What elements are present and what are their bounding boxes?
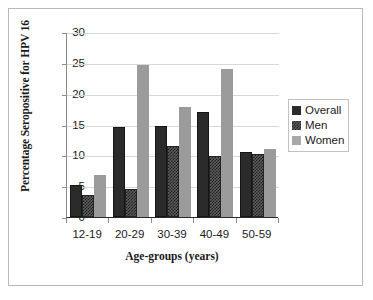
bar-overall-20-29	[113, 127, 125, 217]
bar-overall-40-49	[197, 112, 209, 217]
legend-label: Overall	[305, 105, 341, 117]
x-tick-mark	[151, 218, 152, 223]
bar-men-12-19	[82, 195, 94, 217]
bar-men-30-39	[167, 146, 179, 217]
plot-area	[66, 33, 278, 218]
x-tick-mark	[278, 218, 279, 223]
bar-group	[70, 32, 106, 217]
bar-men-20-29	[125, 189, 137, 217]
legend-item-women: Women	[292, 133, 344, 148]
y-axis-title: Percentage Seropositive for HPV 16	[19, 6, 31, 206]
x-tick-label: 50-59	[227, 228, 287, 240]
legend-swatch-icon	[292, 106, 301, 115]
x-tick-mark	[193, 218, 194, 223]
bar-women-50-59	[264, 149, 276, 217]
chart-figure: Percentage Seropositive for HPV 16 05101…	[0, 0, 373, 300]
bar-men-50-59	[252, 154, 264, 217]
bar-men-40-49	[209, 156, 221, 217]
chart-legend: OverallMenWomen	[288, 99, 349, 152]
legend-label: Women	[305, 135, 344, 147]
legend-item-men: Men	[292, 118, 344, 133]
bar-group	[155, 32, 191, 217]
bar-overall-30-39	[155, 126, 167, 217]
legend-swatch-icon	[292, 136, 301, 145]
legend-swatch-icon	[292, 121, 301, 130]
bar-group	[197, 32, 233, 217]
x-tick-mark	[66, 218, 67, 223]
bar-women-30-39	[179, 107, 191, 217]
bar-women-20-29	[137, 65, 149, 217]
x-tick-mark	[108, 218, 109, 223]
legend-label: Men	[305, 120, 327, 132]
legend-item-overall: Overall	[292, 103, 344, 118]
bar-group	[240, 32, 276, 217]
x-tick-mark	[236, 218, 237, 223]
bar-group	[113, 32, 149, 217]
bar-women-12-19	[94, 175, 106, 217]
bar-overall-12-19	[70, 185, 82, 217]
x-axis-title: Age-groups (years)	[66, 250, 278, 262]
bar-women-40-49	[221, 69, 233, 217]
bar-overall-50-59	[240, 152, 252, 217]
